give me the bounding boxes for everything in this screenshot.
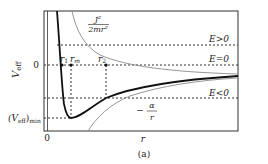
y-axis-label: Veff [10, 61, 23, 78]
r2-label: r2 [98, 54, 106, 64]
coulomb-label-den: r [150, 113, 155, 122]
energy-zero-label: E=0 [208, 54, 229, 64]
vmin-label: (Veff)min [8, 113, 41, 124]
y-zero-label: 0 [33, 60, 39, 70]
coulomb-curve [88, 78, 238, 131]
centrifugal-label-den: 2mr² [87, 25, 108, 34]
coulomb-label-num: α [149, 101, 155, 110]
r1-label: r1 [60, 54, 68, 64]
energy-positive-label: E>0 [208, 34, 229, 44]
effective-potential-diagram: r1 rm r2 J² 2mr² − α r E>0 E=0 E<0 Veff … [0, 0, 268, 164]
rm-label: rm [70, 54, 80, 64]
energy-negative-label: E<0 [208, 88, 229, 98]
centrifugal-label-num: J² [93, 15, 101, 24]
figure-caption: (a) [138, 149, 150, 159]
origin-label: 0 [44, 133, 50, 143]
coulomb-label-sign: − [136, 105, 144, 115]
x-axis-label: r [141, 134, 146, 144]
